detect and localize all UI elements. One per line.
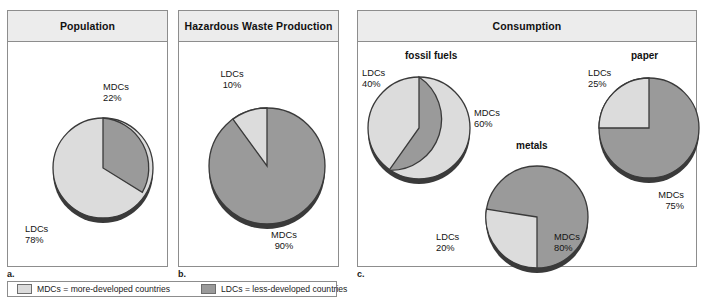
- pie-paper-svg: [596, 75, 704, 187]
- pie-metals-svg: [484, 164, 592, 276]
- pie-population-label-mdcs: MDCs 22%: [103, 82, 129, 104]
- panel-population-title: Population: [60, 20, 115, 32]
- panel-hazardous-waste-body: LDCs 10% MDCs 90%: [179, 42, 338, 266]
- pie-metals: [484, 164, 592, 276]
- legend-swatch-mdcs-icon: [17, 284, 32, 294]
- pie-fossil-fuels-label-mdcs: MDCs 60%: [474, 108, 500, 130]
- pie-population: [45, 110, 161, 226]
- legend-item-mdcs: MDCs = more-developed countries: [17, 284, 170, 294]
- pie-metals-title: metals: [516, 140, 548, 151]
- figure-pie-chart-set: Population MDCs 22% LDCs 78% a. Hazar: [0, 0, 704, 298]
- legend-swatch-ldcs-icon: [201, 284, 216, 294]
- pie-paper-label-ldcs: LDCs 25%: [588, 68, 611, 90]
- figure-letter-c: c.: [357, 269, 365, 279]
- panel-population-body: MDCs 22% LDCs 78%: [8, 42, 167, 266]
- pie-hazardous-waste-label-mdcs: MDCs 90%: [261, 230, 307, 252]
- legend: MDCs = more-developed countries LDCs = l…: [7, 281, 337, 297]
- panel-hazardous-waste-title: Hazardous Waste Production: [184, 20, 332, 32]
- pie-hazardous-waste-label-ldcs: LDCs 10%: [210, 69, 254, 91]
- pie-fossil-fuels-title: fossil fuels: [405, 50, 457, 61]
- pie-population-label-ldcs: LDCs 78%: [25, 224, 48, 246]
- pie-metals-slice-ldcs: [486, 209, 537, 268]
- pie-metals-label-mdcs: MDCs 80%: [554, 232, 580, 254]
- pie-fossil-fuels: [366, 75, 474, 187]
- figure-letter-b: b.: [178, 269, 186, 279]
- pie-fossil-fuels-label-ldcs: LDCs 40%: [362, 68, 385, 90]
- pie-hazardous-waste-svg: [201, 100, 333, 232]
- pie-paper: [596, 75, 704, 187]
- panel-consumption-title: Consumption: [493, 20, 562, 32]
- panel-consumption-header: Consumption: [358, 11, 696, 42]
- pie-fossil-fuels-svg: [366, 75, 474, 187]
- pie-hazardous-waste: [201, 100, 333, 232]
- pie-metals-label-ldcs: LDCs 20%: [436, 232, 459, 254]
- pie-paper-label-mdcs: MDCs 75%: [616, 190, 684, 212]
- panel-population: Population MDCs 22% LDCs 78%: [7, 10, 168, 267]
- panel-hazardous-waste: Hazardous Waste Production LDCs 10% MDCs…: [178, 10, 339, 267]
- figure-letter-a: a.: [7, 269, 15, 279]
- panel-hazardous-waste-header: Hazardous Waste Production: [179, 11, 338, 42]
- pie-paper-title: paper: [631, 50, 658, 61]
- panel-consumption-body: fossil fuels LDCs 40% MDCs 60% metals: [358, 42, 696, 266]
- legend-label-ldcs: LDCs = less-developed countries: [221, 284, 347, 294]
- legend-label-mdcs: MDCs = more-developed countries: [37, 284, 170, 294]
- panel-population-header: Population: [8, 11, 167, 42]
- pie-population-svg: [45, 110, 161, 226]
- panel-consumption: Consumption fossil fuels LDCs 40% MDCs 6…: [357, 10, 697, 267]
- legend-item-ldcs: LDCs = less-developed countries: [201, 284, 347, 294]
